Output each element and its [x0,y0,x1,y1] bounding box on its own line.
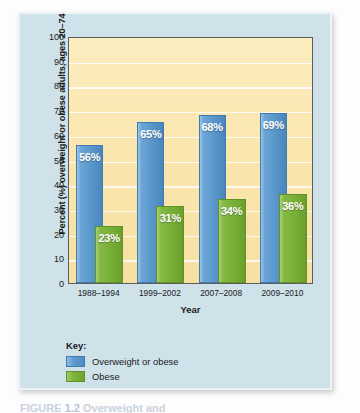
bar-group: 65%31% [137,38,184,283]
bar-group: 69%36% [260,38,307,283]
bar-value-label: 68% [200,121,225,133]
y-axis-tick-labels: 1009080706050403020100 [42,37,64,284]
legend-item-label: Overweight or obese [92,356,179,367]
y-axis-tick: 10 [42,254,64,264]
figure-caption-text: FIGURE 1.2 Overweight and [20,402,166,413]
legend-items: Overweight or obeseObese [66,356,179,382]
bar-value-label: 31% [157,212,183,224]
legend-swatch-green-icon [66,371,85,382]
bar-value-label: 69% [261,119,286,131]
y-axis-tick: 90 [42,57,64,67]
caption-rest: Overweight and [83,402,166,413]
y-axis-tick: 20 [42,230,64,240]
legend-item[interactable]: Obese [66,371,179,382]
figure-caption: FIGURE 1.2 Overweight and [20,398,340,413]
legend-item[interactable]: Overweight or obese [66,356,179,367]
bar-group: 68%34% [199,38,246,283]
y-axis-tick: 100 [42,32,64,42]
figure-card: Percent (%) overweight or obese adults, … [18,12,332,390]
bar-obese[interactable]: 23% [95,226,123,283]
x-axis-title: Year [68,304,313,315]
y-axis-tick: 30 [42,205,64,215]
x-axis-tick: 1999–2002 [129,288,190,298]
y-axis-tick: 80 [42,81,64,91]
y-axis-tick: 70 [42,106,64,116]
y-axis-tick: 40 [42,180,64,190]
bar-value-label: 65% [138,128,163,140]
y-axis-tick: 50 [42,156,64,166]
y-axis-tick: 60 [42,131,64,141]
bar-obese[interactable]: 31% [156,206,184,283]
x-axis-tick: 2009–2010 [252,288,313,298]
x-axis-tick-labels: 1988–19941999–20022007–20082009–2010 [68,288,313,302]
y-axis-tick: 0 [42,279,64,289]
bar-group: 56%23% [76,38,123,283]
legend: Key: Overweight or obeseObese [66,340,179,386]
bar-obese[interactable]: 36% [279,194,307,283]
bar-obese[interactable]: 34% [218,199,246,283]
legend-title: Key: [66,340,179,351]
bars-layer: 56%23%65%31%68%34%69%36% [69,38,312,283]
legend-swatch-blue-icon [66,356,85,367]
bar-value-label: 36% [280,200,306,212]
x-axis-tick: 1988–1994 [68,288,129,298]
legend-item-label: Obese [92,371,120,382]
bar-value-label: 56% [77,151,102,163]
bar-value-label: 34% [219,205,245,217]
bar-chart: Percent (%) overweight or obese adults, … [20,14,334,314]
plot-area: 56%23%65%31%68%34%69%36% [68,37,313,284]
figure-screenshot: Percent (%) overweight or obese adults, … [0,0,360,413]
x-axis-tick: 2007–2008 [191,288,252,298]
bar-value-label: 23% [96,232,122,244]
caption-number: 1.2 [65,402,80,413]
caption-prefix: FIGURE [20,402,62,413]
